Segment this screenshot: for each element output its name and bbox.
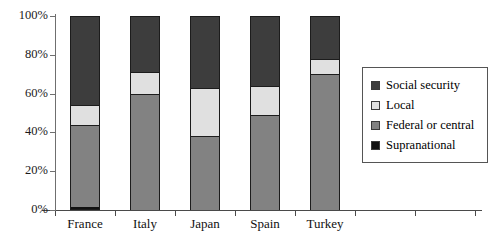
legend-swatch-icon: [371, 121, 380, 130]
legend-item[interactable]: Social security: [371, 75, 487, 95]
x-axis-tick: [475, 211, 476, 216]
category-label-japan: Japan: [175, 216, 235, 231]
legend-item[interactable]: Local: [371, 95, 487, 115]
bar-segment[interactable]: [310, 59, 340, 75]
plot-area: [55, 16, 355, 210]
bar-segment[interactable]: [130, 16, 160, 72]
legend-label: Social security: [386, 79, 460, 92]
legend-swatch-icon: [371, 141, 380, 150]
chart-legend: Social securityLocalFederal or centralSu…: [362, 67, 488, 163]
bar-segment[interactable]: [250, 16, 280, 86]
x-axis-tick: [355, 211, 356, 216]
bar-turkey[interactable]: [310, 16, 340, 210]
y-axis-tick-label: 20%: [6, 164, 48, 176]
category-label-italy: Italy: [115, 216, 175, 231]
y-axis-tick-label: 40%: [6, 125, 48, 137]
bar-segment[interactable]: [70, 16, 100, 105]
bar-segment[interactable]: [70, 207, 100, 210]
bar-france[interactable]: [70, 16, 100, 210]
y-axis-tick-label: 60%: [6, 87, 48, 99]
y-axis-tick-label: 80%: [6, 48, 48, 60]
bar-segment[interactable]: [310, 16, 340, 59]
category-label-spain: Spain: [235, 216, 295, 231]
bar-segment[interactable]: [250, 115, 280, 210]
legend-swatch-icon: [371, 81, 380, 90]
legend-label: Local: [386, 99, 414, 112]
bar-segment[interactable]: [130, 72, 160, 93]
bar-italy[interactable]: [130, 16, 160, 210]
legend-item[interactable]: Federal or central: [371, 115, 487, 135]
y-axis-tick-label: 0%: [6, 203, 48, 215]
legend-swatch-icon: [371, 101, 380, 110]
stacked-bar-chart: 0%20%40%60%80%100% FranceItalyJapanSpain…: [0, 0, 495, 239]
bar-segment[interactable]: [250, 86, 280, 115]
bar-segment[interactable]: [190, 16, 220, 88]
bar-segment[interactable]: [130, 94, 160, 210]
bar-japan[interactable]: [190, 16, 220, 210]
category-label-france: France: [55, 216, 115, 231]
x-axis-tick: [415, 211, 416, 216]
bar-segment[interactable]: [70, 125, 100, 207]
legend-item[interactable]: Supranational: [371, 135, 487, 155]
category-label-turkey: Turkey: [295, 216, 355, 231]
x-axis-line: [42, 210, 482, 211]
bar-segment[interactable]: [190, 88, 220, 137]
legend-label: Supranational: [386, 139, 455, 152]
bar-spain[interactable]: [250, 16, 280, 210]
bar-segment[interactable]: [190, 136, 220, 210]
legend-label: Federal or central: [386, 119, 474, 132]
bar-segment[interactable]: [70, 105, 100, 124]
y-axis-tick-label: 100%: [6, 9, 48, 21]
bar-segment[interactable]: [310, 74, 340, 210]
